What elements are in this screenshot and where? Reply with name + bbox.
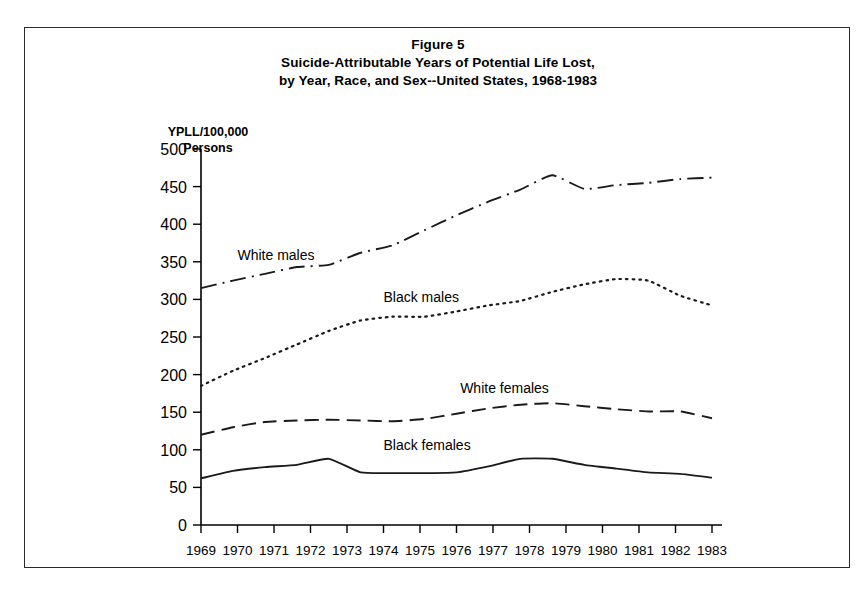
x-tick-label-1983: 1983	[697, 543, 727, 558]
x-tick-label-1977: 1977	[478, 543, 508, 558]
y-tick-label-150: 150	[160, 404, 187, 421]
y-tick-label-250: 250	[160, 329, 187, 346]
x-tick-label-1973: 1973	[332, 543, 362, 558]
series-line-white-males	[201, 175, 712, 288]
series-label-black-males: Black males	[384, 289, 459, 305]
x-tick-label-1974: 1974	[368, 543, 399, 558]
y-tick-label-200: 200	[160, 367, 187, 384]
x-tick-label-1982: 1982	[660, 543, 690, 558]
plot-area: 050100150200250300350400450500 196919701…	[25, 28, 851, 569]
y-axis-ticks: 050100150200250300350400450500	[160, 141, 201, 534]
series-label-white-females: White females	[460, 380, 549, 396]
x-tick-label-1976: 1976	[441, 543, 471, 558]
y-tick-label-100: 100	[160, 442, 187, 459]
x-tick-label-1969: 1969	[186, 543, 216, 558]
x-axis-ticks: 1969197019711972197319741975197619771978…	[186, 525, 727, 558]
series-label-black-females: Black females	[384, 437, 471, 453]
x-tick-label-1975: 1975	[405, 543, 435, 558]
y-tick-label-350: 350	[160, 254, 187, 271]
y-tick-label-0: 0	[178, 517, 187, 534]
series-line-white-females	[201, 403, 712, 435]
figure-frame: Figure 5 Suicide-Attributable Years of P…	[24, 27, 850, 568]
x-tick-label-1980: 1980	[587, 543, 617, 558]
series-label-white-males: White males	[238, 247, 315, 263]
y-tick-label-400: 400	[160, 216, 187, 233]
y-tick-label-500: 500	[160, 141, 187, 158]
series-line-black-females	[201, 458, 712, 478]
x-tick-label-1972: 1972	[295, 543, 325, 558]
x-tick-label-1979: 1979	[551, 543, 581, 558]
y-tick-label-300: 300	[160, 291, 187, 308]
x-tick-label-1981: 1981	[624, 543, 654, 558]
x-tick-label-1970: 1970	[222, 543, 252, 558]
data-series-group	[201, 175, 712, 478]
y-tick-label-450: 450	[160, 179, 187, 196]
y-tick-label-50: 50	[169, 479, 187, 496]
x-tick-label-1978: 1978	[514, 543, 544, 558]
figure-page: Figure 5 Suicide-Attributable Years of P…	[0, 0, 865, 591]
line-chart: 050100150200250300350400450500 196919701…	[25, 28, 851, 569]
x-tick-label-1971: 1971	[259, 543, 289, 558]
